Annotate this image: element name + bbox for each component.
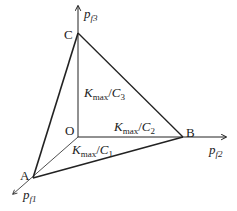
point-label-a: A xyxy=(20,168,30,183)
segment-label-ob: Kmax/C2 xyxy=(113,119,155,136)
point-label-o: O xyxy=(65,123,74,138)
segment-label-oc: Kmax/C3 xyxy=(83,85,125,102)
axis-label-pf3: pf3 xyxy=(83,6,98,23)
axis-label-pf2: pf2 xyxy=(208,142,223,159)
axis-label-pf1: pf1 xyxy=(22,187,37,204)
segment-label-oa: Kmax/C1 xyxy=(71,142,113,159)
triangle-diagram: C O B A pf3 pf2 pf1 Kmax/C3 Kmax/C2 Kmax… xyxy=(0,0,237,211)
axis-pf1 xyxy=(13,137,78,194)
point-label-b: B xyxy=(186,125,195,140)
point-label-c: C xyxy=(64,27,73,42)
edge-cb xyxy=(78,33,183,137)
